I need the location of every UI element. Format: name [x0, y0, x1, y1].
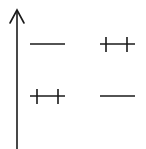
level-upper-right	[100, 37, 135, 52]
energy-axis-arrow-icon	[10, 10, 24, 149]
level-lower-left	[30, 89, 65, 104]
energy-diagram	[0, 0, 146, 149]
